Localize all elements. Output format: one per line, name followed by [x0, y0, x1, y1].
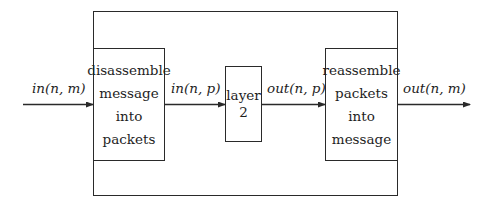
edge-label-in-n-p: in(n, p) [171, 80, 220, 96]
edge-label-out-n-m: out(n, m) [403, 80, 466, 96]
block-text-line: packets [335, 82, 388, 105]
block-text-line: disassemble [87, 59, 171, 82]
block-text-line: 2 [239, 104, 248, 121]
block-text-line: packets [103, 128, 156, 151]
protocol-block-diagram: disassemble message into packets layer 2… [0, 0, 490, 207]
block-text-line: layer [226, 87, 260, 104]
edge-label-in-n-m: in(n, m) [32, 80, 86, 96]
edge-label-out-n-p: out(n, p) [267, 80, 326, 96]
block-text-line: reassemble [322, 59, 400, 82]
block-text-line: message [332, 128, 391, 151]
block-text-line: into [116, 105, 143, 128]
reassemble-block: reassemble packets into message [325, 48, 398, 161]
block-text-line: into [348, 105, 375, 128]
disassemble-block: disassemble message into packets [93, 48, 165, 161]
block-text-line: message [99, 82, 158, 105]
layer2-block: layer 2 [225, 66, 262, 142]
